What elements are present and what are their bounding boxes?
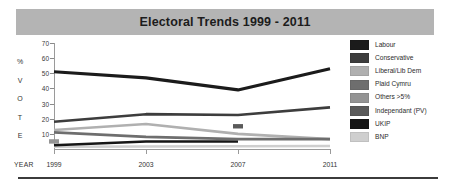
legend-item[interactable]: Independant (PV) — [350, 107, 445, 115]
legend-item[interactable]: Liberal/Lib Dem — [350, 67, 445, 75]
series-line — [54, 146, 330, 147]
legend-item-label: Labour — [375, 42, 396, 49]
legend-item[interactable]: Labour — [350, 41, 445, 49]
x-axis-tick-label: 2011 — [323, 161, 338, 168]
series-line — [54, 69, 330, 90]
legend-swatch-icon — [350, 53, 369, 63]
legend-item-label: BNP — [375, 134, 389, 141]
y-axis-tickmark — [50, 58, 54, 59]
chart-title-banner: Electoral Trends 1999 - 2011 — [16, 9, 434, 35]
footer-rule — [18, 177, 438, 179]
y-axis-tickmark — [50, 119, 54, 120]
legend-item[interactable]: UKIP — [350, 120, 445, 128]
legend-item-label: Independant (PV) — [375, 108, 427, 115]
series-marker — [49, 139, 59, 143]
y-axis-tickmark — [50, 104, 54, 105]
y-axis-tickmark — [50, 88, 54, 89]
chart-legend: LabourConservativeLiberal/Lib DemPlaid C… — [350, 41, 445, 141]
y-axis-tickmark — [50, 43, 54, 44]
legend-item[interactable]: BNP — [350, 133, 445, 141]
y-axis-tickmark — [50, 73, 54, 74]
legend-swatch-icon — [350, 106, 369, 116]
legend-item[interactable]: Others >5% — [350, 94, 445, 102]
legend-item-label: Plaid Cymru — [375, 81, 411, 88]
series-line — [54, 141, 238, 145]
legend-item-label: UKIP — [375, 121, 390, 128]
legend-swatch-icon — [350, 80, 369, 90]
legend-swatch-icon — [350, 132, 369, 142]
legend-item-label: Others >5% — [375, 94, 410, 101]
legend-swatch-icon — [350, 93, 369, 103]
chart-page: Electoral Trends 1999 - 2011 %VOTE 70605… — [0, 0, 449, 183]
legend-swatch-icon — [350, 40, 369, 50]
x-axis-tick-label: 2003 — [138, 161, 153, 168]
legend-swatch-icon — [350, 119, 369, 129]
legend-item[interactable]: Conservative — [350, 54, 445, 62]
series-marker — [233, 124, 243, 128]
series-line — [54, 107, 330, 121]
y-axis-tickmark — [50, 134, 54, 135]
x-axis-labels: YEAR 1999200320072011 — [0, 161, 449, 173]
legend-swatch-icon — [350, 66, 369, 76]
x-axis-tick-label: 1999 — [46, 161, 61, 168]
page-title: Electoral Trends 1999 - 2011 — [140, 15, 311, 29]
x-axis-tick-label: 2007 — [230, 161, 245, 168]
x-axis-title: YEAR — [14, 161, 34, 168]
legend-item[interactable]: Plaid Cymru — [350, 81, 445, 89]
legend-item-label: Liberal/Lib Dem — [375, 68, 421, 75]
legend-item-label: Conservative — [375, 55, 413, 62]
